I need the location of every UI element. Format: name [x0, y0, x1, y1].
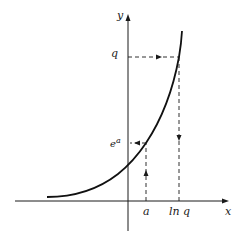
ea-exponent: a — [116, 136, 121, 145]
up-arrow-icon — [144, 170, 149, 176]
y-axis-label: y — [116, 9, 124, 22]
ea-label: ea — [110, 136, 121, 149]
x-axis — [15, 199, 229, 204]
right-arrow-icon — [156, 55, 162, 60]
x-axis-label: x — [225, 205, 232, 218]
down-arrow-icon — [177, 135, 182, 141]
a-to-ea-mapping — [130, 141, 149, 202]
x-axis-arrow-icon — [222, 199, 229, 204]
q-label: q — [111, 47, 118, 60]
a-label: a — [143, 205, 150, 218]
y-axis-arrow-icon — [126, 14, 131, 21]
y-axis — [126, 14, 131, 231]
left-arrow-icon — [134, 141, 140, 146]
ln-q-label: ln q — [169, 205, 190, 218]
exponential-log-diagram: y x q ea a ln q — [0, 0, 242, 241]
